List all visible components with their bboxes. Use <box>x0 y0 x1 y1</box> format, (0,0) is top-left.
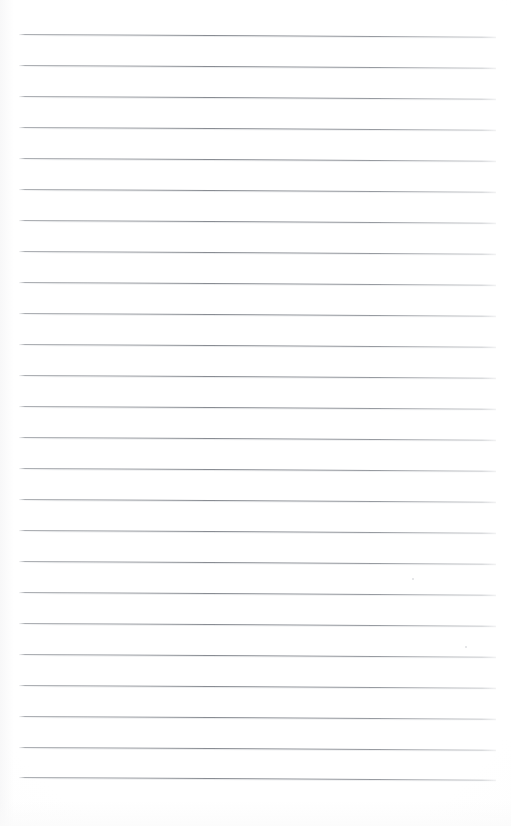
ruled-line <box>19 313 496 317</box>
scan-speck <box>412 578 414 580</box>
ruled-line <box>19 251 496 255</box>
ruled-line <box>19 530 496 534</box>
ruled-line <box>19 747 496 751</box>
ruled-line <box>19 220 496 224</box>
ruled-line <box>19 623 496 627</box>
scanned-page <box>0 0 511 826</box>
ruled-line <box>19 158 496 162</box>
ruled-lines-layer <box>0 0 511 826</box>
ruled-line <box>19 592 496 596</box>
scan-speck <box>465 646 467 648</box>
ruled-line <box>19 34 496 38</box>
ruled-line <box>19 654 496 658</box>
ruled-line <box>19 96 496 100</box>
ruled-line <box>19 561 496 565</box>
ruled-line <box>19 685 496 689</box>
ruled-line <box>19 468 496 472</box>
ruled-line <box>19 716 496 720</box>
ruled-line <box>19 777 496 781</box>
ruled-line <box>19 127 496 131</box>
ruled-line <box>19 437 496 441</box>
ruled-line <box>19 375 496 379</box>
ruled-line <box>19 406 496 410</box>
ruled-line <box>19 499 496 503</box>
ruled-line <box>19 65 496 69</box>
ruled-line <box>19 282 496 286</box>
ruled-line <box>19 189 496 193</box>
ruled-line <box>19 344 496 348</box>
